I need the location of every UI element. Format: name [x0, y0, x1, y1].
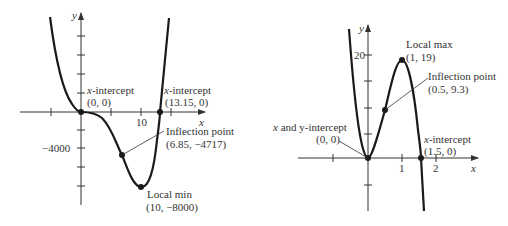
right-graph: y x 1 2 20 Local max (1, 19) Inflection …: [272, 22, 496, 211]
right-origin-label: x and y-intercept: [272, 121, 347, 133]
right-origin-coords: (0, 0): [316, 133, 340, 146]
left-local-min-label: Local min: [147, 188, 192, 200]
right-local-max-point: [399, 57, 405, 63]
right-x-intercept-label: x-intercept: [423, 133, 471, 145]
left-x-tick-10: 10: [136, 116, 148, 128]
left-local-min-coords: (10, −8000): [146, 201, 198, 214]
left-origin-label: x-intercept: [86, 84, 134, 96]
right-x-intercept-coords: (1.5, 0): [424, 145, 456, 158]
right-x-axis-label: x: [470, 162, 476, 174]
right-local-max-coords: (1, 19): [406, 51, 436, 64]
figure: y x 10 −4000 x-intercept (0, 0) x-interc…: [0, 0, 508, 226]
left-inflection-label: Inflection point: [166, 125, 234, 137]
left-x-intercept-point: [157, 109, 163, 115]
left-inflection-coords: (6.85, −4717): [166, 138, 227, 151]
right-y-tick-20: 20: [354, 49, 366, 61]
right-local-max-label: Local max: [406, 38, 453, 50]
right-inflection-label: Inflection point: [428, 70, 496, 82]
right-inflection-coords: (0.5, 9.3): [428, 83, 469, 96]
left-y-tick-neg4000: −4000: [42, 142, 71, 154]
left-x-intercept-label: x-intercept: [163, 84, 211, 96]
left-origin-coords: (0, 0): [87, 96, 111, 109]
left-local-min-point: [138, 184, 144, 190]
left-x-intercept-coords: (13.15, 0): [165, 96, 208, 109]
left-origin-point: [78, 109, 84, 115]
right-x-tick-1: 1: [399, 162, 405, 174]
left-y-axis-label: y: [71, 9, 77, 21]
right-y-axis-label: y: [358, 22, 364, 34]
left-graph: y x 10 −4000 x-intercept (0, 0) x-interc…: [20, 9, 234, 214]
right-x-tick-2: 2: [433, 162, 439, 174]
